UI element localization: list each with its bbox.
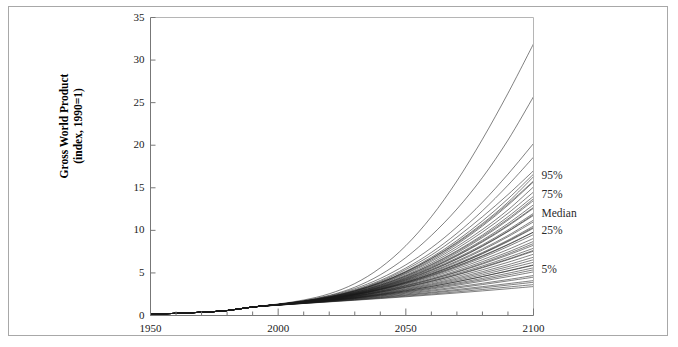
y-axis-tick-label: 15 — [123, 181, 145, 193]
y-axis-tick-label: 10 — [123, 223, 145, 235]
y-axis-tick-label: 35 — [123, 11, 145, 23]
series-line — [151, 97, 534, 314]
series-line — [151, 262, 534, 314]
series-line — [151, 181, 534, 314]
y-axis-tick-label: 25 — [123, 96, 145, 108]
percentile-label-95pct: 95% — [542, 169, 563, 181]
x-axis-tick-label: 2050 — [386, 322, 426, 334]
percentile-label-median: Median — [542, 207, 577, 219]
x-axis-tick-label: 2000 — [258, 322, 298, 334]
x-axis-tick-label: 2100 — [514, 322, 554, 334]
series-line — [151, 244, 534, 314]
percentile-label-75pct: 75% — [542, 188, 563, 200]
series-line — [151, 265, 534, 314]
series-line — [151, 235, 534, 314]
series-lines-group — [151, 44, 534, 314]
chart-plot-svg — [0, 0, 678, 347]
x-axis-tick-label: 1950 — [131, 322, 171, 334]
y-axis-tick-label: 20 — [123, 138, 145, 150]
axes-group — [151, 18, 534, 316]
series-line — [151, 157, 534, 314]
y-axis-tick-label: 5 — [123, 266, 145, 278]
chart-figure: Gross World Product (index, 1990=1) 0510… — [0, 0, 678, 347]
percentile-label-5pct: 5% — [542, 263, 557, 275]
series-line — [151, 251, 534, 314]
y-axis-tick-label: 30 — [123, 53, 145, 65]
percentile-label-25pct: 25% — [542, 224, 563, 236]
y-axis-tick-label: 0 — [123, 309, 145, 321]
